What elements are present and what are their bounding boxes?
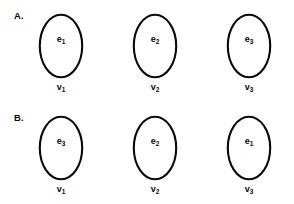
vertex-subscript: 1 [62,86,66,93]
node-b-1: e3 v1 [38,115,84,183]
panel-a: A. e1 v1 e2 v2 [0,0,294,102]
node-b-2: e2 v2 [132,115,178,183]
vertex-letter: v [151,82,156,92]
edge-label: e1 [226,137,272,146]
edge-letter: e [57,34,62,44]
edge-label: e2 [132,137,178,146]
edge-label: e3 [226,35,272,44]
vertex-label: v2 [128,83,182,92]
vertex-label: v3 [222,83,276,92]
edge-subscript: 1 [62,38,66,45]
vertex-letter: v [245,184,250,194]
ellipse-icon [132,115,178,181]
ellipse-icon [226,115,272,181]
edge-label: e2 [132,35,178,44]
vertex-subscript: 3 [250,188,254,195]
edge-letter: e [245,136,250,146]
edge-subscript: 3 [62,140,66,147]
edge-letter: e [245,34,250,44]
ellipse-icon [38,115,84,181]
hypergraph-diagram: A. e1 v1 e2 v2 [0,0,294,204]
vertex-label: v1 [34,83,88,92]
ellipse-icon [226,13,272,79]
edge-label: e3 [38,137,84,146]
ellipse-icon [132,13,178,79]
vertex-subscript: 3 [250,86,254,93]
vertex-label: v2 [128,185,182,194]
vertex-label: v3 [222,185,276,194]
vertex-letter: v [245,82,250,92]
vertex-subscript: 1 [62,188,66,195]
panel-label-b: B. [14,113,24,123]
node-a-3: e3 v3 [226,13,272,81]
edge-subscript: 2 [156,140,160,147]
panel-b: B. e3 v1 e2 v2 [0,102,294,204]
edge-subscript: 1 [250,140,254,147]
edge-letter: e [151,34,156,44]
vertex-letter: v [57,184,62,194]
node-a-2: e2 v2 [132,13,178,81]
edge-subscript: 2 [156,38,160,45]
node-b-3: e1 v3 [226,115,272,183]
edge-letter: e [57,136,62,146]
vertex-label: v1 [34,185,88,194]
edge-label: e1 [38,35,84,44]
edge-subscript: 3 [250,38,254,45]
vertex-subscript: 2 [156,188,160,195]
vertex-subscript: 2 [156,86,160,93]
vertex-letter: v [151,184,156,194]
edge-letter: e [151,136,156,146]
node-a-1: e1 v1 [38,13,84,81]
ellipse-icon [38,13,84,79]
panel-label-a: A. [14,11,24,21]
vertex-letter: v [57,82,62,92]
